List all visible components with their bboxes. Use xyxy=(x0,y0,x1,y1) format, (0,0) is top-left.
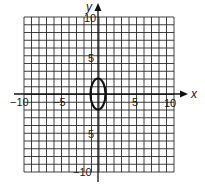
y-tick-pos5: 5 xyxy=(88,52,94,64)
coordinate-plane: x y −10 −5 5 10 10 5 5 −10 xyxy=(0,0,205,187)
x-axis-label: x xyxy=(190,87,198,101)
x-tick-neg10: −10 xyxy=(10,96,29,108)
y-tick-neg5: 5 xyxy=(88,128,94,140)
y-tick-neg10: −10 xyxy=(73,166,92,178)
y-axis-arrow-icon xyxy=(95,3,102,11)
x-axis-arrow-icon xyxy=(180,91,188,98)
y-tick-pos10: 10 xyxy=(84,12,96,24)
x-tick-neg5: −5 xyxy=(53,96,66,108)
x-tick-pos5: 5 xyxy=(132,96,138,108)
x-tick-pos10: 10 xyxy=(164,97,176,109)
